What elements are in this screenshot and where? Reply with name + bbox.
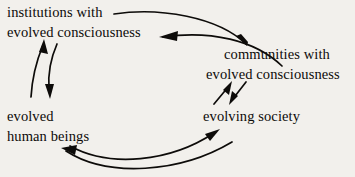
node-evolved-human-beings: evolved human beings xyxy=(7,106,89,146)
arrow-institutions-to-human-beings xyxy=(49,44,57,89)
arrowhead-human-beings-to-evolving-society xyxy=(205,129,220,141)
node-communities-with-evolved-consciousness: communities with evolved consciousness xyxy=(206,44,340,84)
node-communities-line-1: communities with xyxy=(224,44,340,64)
arrow-human-beings-to-evolving-society xyxy=(70,133,214,159)
node-institutions-line-1: institutions with xyxy=(7,2,141,22)
arrow-human-beings-to-institutions xyxy=(31,45,43,97)
node-communities-line-2: evolved consciousness xyxy=(206,64,340,84)
node-institutions-with-evolved-consciousness: institutions with evolved consciousness xyxy=(7,2,141,42)
node-evolving-society: evolving society xyxy=(203,106,300,126)
node-human-beings-line-1: evolved xyxy=(7,106,89,126)
arrowhead-communities-to-institutions xyxy=(159,31,178,41)
node-human-beings-line-2: human beings xyxy=(7,126,89,146)
diagram-canvas: institutions with evolved consciousness … xyxy=(0,0,355,177)
arrowhead-institutions-to-human-beings xyxy=(45,84,54,99)
node-institutions-line-2: evolved consciousness xyxy=(7,22,141,42)
node-evolving-society-line-1: evolving society xyxy=(203,106,300,126)
